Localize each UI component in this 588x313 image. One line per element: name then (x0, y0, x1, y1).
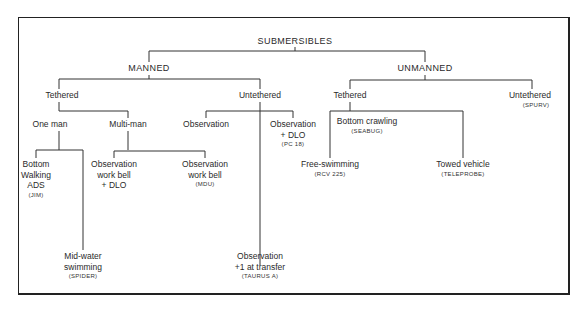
node-towed-vehicle: Towed vehicle (TELEPROBE) (436, 159, 489, 178)
mw-example: (SPIDER) (64, 272, 102, 280)
node-observation-dlo: Observation + DLO (PC 18) (270, 119, 316, 148)
node-bottom-crawling: Bottom crawling (SEABUG) (337, 116, 397, 135)
obs-t-line2: +1 at transfer (235, 262, 285, 272)
bc-example: (SEABUG) (337, 127, 397, 135)
node-manned: MANNED (128, 63, 169, 74)
owb-dlo-line2: work bell (97, 170, 131, 180)
obs-t-example: (TAURUS A) (235, 272, 285, 280)
node-obs-work-bell: Observation work bell (MDU) (182, 159, 228, 188)
obs-t-line1: Observation (237, 251, 283, 261)
node-obs-work-bell-dlo: Observation work bell + DLO (91, 159, 137, 191)
node-multi-man: Multi-man (109, 119, 146, 130)
node-bottom-walking-ads: Bottom Walking ADS (JIM) (21, 159, 51, 199)
node-observation: Observation (183, 119, 229, 130)
mw-line2: swimming (64, 262, 102, 272)
u-untethered-label: Untethered (509, 90, 551, 100)
obs-dlo-line1: Observation (270, 119, 316, 129)
node-one-man: One man (33, 119, 68, 130)
bw-line1: Bottom (23, 159, 50, 169)
bw-line3: ADS (27, 180, 44, 190)
tv-example: (TELEPROBE) (436, 170, 489, 178)
fs-example: (RCV 225) (301, 170, 359, 178)
node-unmanned: UNMANNED (397, 63, 452, 74)
owb-line1: Observation (182, 159, 228, 169)
owb-dlo-line1: Observation (91, 159, 137, 169)
owb-example: (MDU) (182, 180, 228, 188)
obs-dlo-line2: + DLO (281, 130, 306, 140)
fs-label: Free-swimming (301, 159, 359, 169)
node-submersibles: SUBMERSIBLES (258, 36, 333, 47)
bc-label: Bottom crawling (337, 116, 397, 126)
node-observation-transfer: Observation +1 at transfer (TAURUS A) (235, 251, 285, 280)
owb-dlo-line3: + DLO (102, 180, 127, 190)
obs-dlo-example: (PC 18) (270, 140, 316, 148)
owb-line2: work bell (188, 170, 222, 180)
bw-example: (JIM) (21, 191, 51, 199)
node-unmanned-tethered: Tethered (333, 90, 366, 101)
u-untethered-example: (SPURV) (509, 101, 551, 109)
node-free-swimming: Free-swimming (RCV 225) (301, 159, 359, 178)
node-mid-water-swimming: Mid-water swimming (SPIDER) (64, 251, 102, 280)
mw-line1: Mid-water (64, 251, 101, 261)
node-manned-untethered: Untethered (239, 90, 281, 101)
node-manned-tethered: Tethered (45, 90, 78, 101)
node-unmanned-untethered: Untethered (SPURV) (509, 90, 551, 109)
bw-line2: Walking (21, 170, 51, 180)
tv-label: Towed vehicle (436, 159, 489, 169)
